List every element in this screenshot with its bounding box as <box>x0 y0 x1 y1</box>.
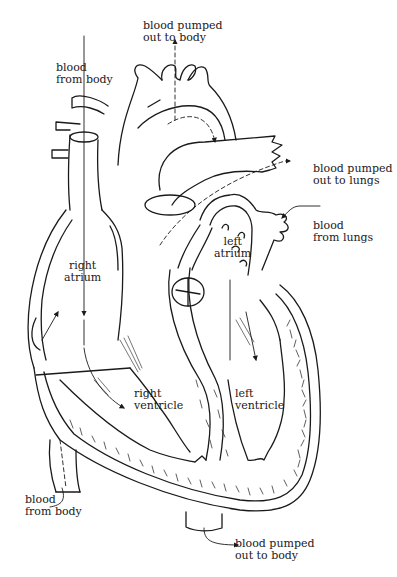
label-from-lungs: blood from lungs <box>313 220 373 244</box>
left-atrium-wall <box>200 194 288 275</box>
label-aorta-out-to-body-bottom: blood pumped out to body <box>235 538 315 562</box>
ventricle-chambers <box>60 300 285 462</box>
label-out-to-lungs: blood pumped out to lungs <box>313 163 393 187</box>
heart-illustration <box>0 0 397 577</box>
label-blood-from-body-top: blood from body <box>56 62 113 86</box>
label-line: out to body <box>235 550 315 562</box>
interventricular-septum <box>169 225 224 460</box>
label-line: out to lungs <box>313 175 393 187</box>
label-left-atrium: left atrium <box>214 236 251 260</box>
inferior-vena-cava <box>49 440 80 492</box>
label-line: atrium <box>214 248 251 260</box>
pulmonary-artery <box>145 136 282 215</box>
label-line: from body <box>25 506 82 518</box>
label-blood-from-body-bottom: blood from body <box>25 494 82 518</box>
label-right-atrium: right atrium <box>64 260 101 284</box>
label-left-ventricle: left ventricle <box>235 388 284 412</box>
aortic-arch <box>118 65 236 165</box>
label-line: atrium <box>64 272 101 284</box>
label-aorta-out-to-body-top: blood pumped out to body <box>143 20 223 44</box>
label-line: from body <box>56 74 113 86</box>
label-line: ventricle <box>134 400 183 412</box>
label-line: ventricle <box>235 400 284 412</box>
heart-diagram: blood pumped out to body blood from body… <box>0 0 397 577</box>
right-atrium-wall <box>28 210 123 368</box>
label-right-ventricle: right ventricle <box>134 388 183 412</box>
label-line: out to body <box>143 32 223 44</box>
label-line: from lungs <box>313 232 373 244</box>
superior-vena-cava <box>52 96 108 210</box>
